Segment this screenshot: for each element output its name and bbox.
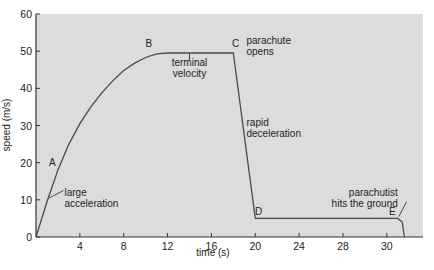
y-tick-label: 60 (20, 8, 32, 20)
x-tick-label: 20 (249, 240, 261, 252)
y-tick-label: 40 (20, 82, 32, 94)
x-tick-label: 4 (77, 240, 83, 252)
speed-time-chart: 48121620242830 0102030405060 ABCDE large… (0, 0, 434, 270)
x-tick-label: 28 (337, 240, 349, 252)
y-axis-label: speed (m/s) (1, 99, 12, 152)
point-label-a: A (49, 157, 56, 168)
x-tick-label: 30 (381, 240, 393, 252)
point-label-d: D (255, 206, 262, 217)
y-tick-label: 30 (20, 120, 32, 132)
y-tick-label: 10 (20, 194, 32, 206)
x-axis-label: time (s) (196, 247, 229, 258)
y-tick-label: 20 (20, 157, 32, 169)
point-label-c: C (232, 38, 239, 49)
point-label-b: B (146, 38, 153, 49)
x-tick-label: 12 (162, 240, 174, 252)
y-tick-label: 0 (26, 231, 32, 243)
x-tick-label: 8 (121, 240, 127, 252)
x-tick-label: 24 (293, 240, 305, 252)
y-tick-label: 50 (20, 45, 32, 57)
